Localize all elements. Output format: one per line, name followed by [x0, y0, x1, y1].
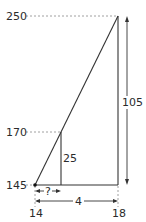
- arrow-left-icon: [35, 189, 40, 193]
- arrow-down-icon: [125, 179, 129, 185]
- label-105: 105: [122, 96, 143, 109]
- y-label-170: 170: [6, 127, 27, 138]
- arrow-right-icon: [56, 189, 61, 193]
- y-label-250: 250: [6, 11, 27, 22]
- label-25: 25: [63, 153, 77, 164]
- x-label-14: 14: [29, 208, 43, 219]
- arrow-up-icon: [125, 16, 129, 22]
- arrow-right-icon: [113, 199, 118, 203]
- arrow-left-icon: [35, 199, 40, 203]
- y-label-145: 145: [6, 180, 27, 191]
- x-label-18: 18: [112, 208, 126, 219]
- label-unknown: ?: [44, 186, 52, 197]
- origin-point: [33, 183, 37, 187]
- label-4: 4: [73, 196, 84, 207]
